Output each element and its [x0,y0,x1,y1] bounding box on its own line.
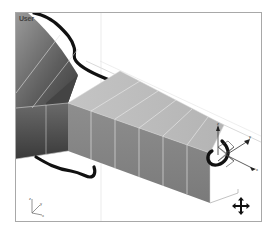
svg-text:x: x [256,167,258,172]
tripod-y-label: y [40,201,42,206]
scene-geometry[interactable] [16,13,262,222]
gizmo-y-axis[interactable]: y [226,134,251,155]
gizmo-z-axis[interactable]: z [216,123,220,155]
viewport-label[interactable]: User [19,15,34,22]
spline-shape-bottom-left[interactable] [36,157,95,177]
gizmo-plane-handles[interactable] [218,141,234,167]
axis-tripod: z y x [24,195,48,219]
move-gizmo[interactable]: z y x [204,123,262,185]
tripod-z-label: z [29,196,31,201]
svg-text:z: z [217,123,219,126]
tripod-x-label: x [42,213,44,218]
3d-viewport[interactable]: User [15,12,262,222]
svg-text:y: y [249,134,251,139]
move-cursor-icon [232,197,250,215]
extruded-box[interactable] [68,71,224,203]
